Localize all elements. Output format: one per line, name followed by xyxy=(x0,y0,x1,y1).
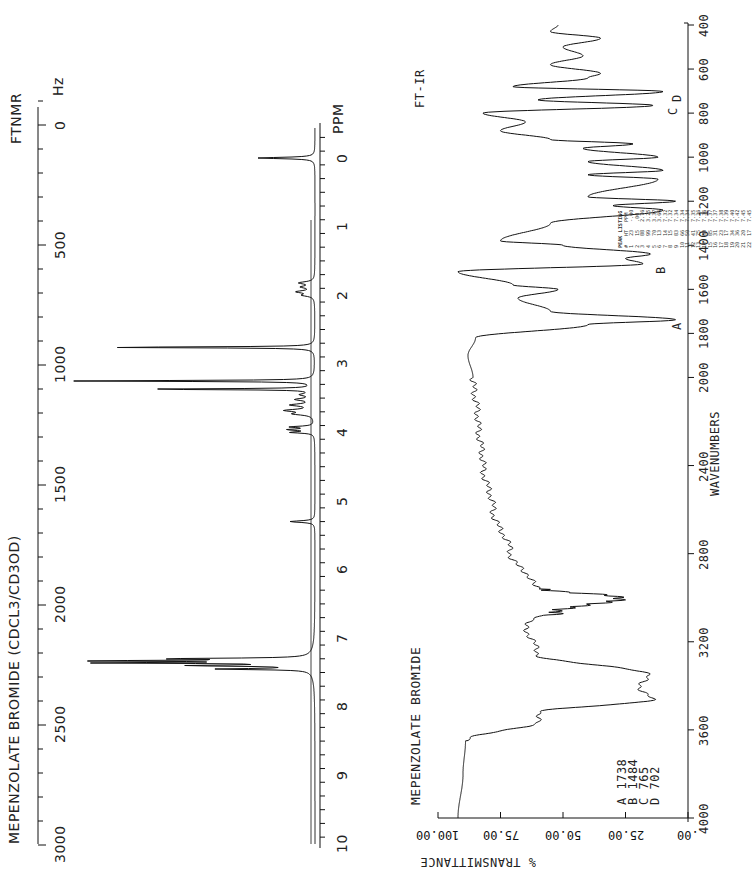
ir-peak-marker-b: B xyxy=(654,266,668,274)
nmr-ppm-tick-label: 10 xyxy=(334,834,350,853)
nmr-hz-tick-label: 2500 xyxy=(52,705,68,743)
ir-wavenumber-tick-label: 1200 xyxy=(697,186,711,217)
ir-wavenumber-tick-label: 600 xyxy=(697,58,711,81)
nmr-ppm-tick-label: 5 xyxy=(334,496,350,505)
ir-wavenumber-tick-label: 1000 xyxy=(697,142,711,173)
ir-transmittance-tick-label: 75.00 xyxy=(483,828,519,842)
ir-wavenumber-tick-label: 4000 xyxy=(697,803,711,834)
ir-peak-table-row: D 702 xyxy=(648,766,662,805)
nmr-hz-tick-label: 0 xyxy=(52,120,68,129)
peak-listing-row: 22177.45 xyxy=(747,200,752,248)
ir-wavenumber-tick-label: 800 xyxy=(697,102,711,125)
nmr-peak-listing: PEAK LISTING #HTPPM123-.00215.003882.764… xyxy=(618,200,752,248)
nmr-hz-unit: Hz xyxy=(50,77,66,96)
nmr-ppm-tick-label: 6 xyxy=(334,565,350,574)
nmr-ppm-tick-label: 7 xyxy=(334,633,350,642)
ir-wavenumber-tick-label: 2800 xyxy=(697,539,711,570)
ir-peak-marker-c: C xyxy=(666,108,680,116)
ir-wavenumber-tick-label: 3600 xyxy=(697,715,711,746)
nmr-ppm-tick-label: 9 xyxy=(334,770,350,779)
nmr-ppm-tick-label: 4 xyxy=(334,427,350,436)
nmr-instrument-label: FTNMR xyxy=(8,93,24,144)
nmr-ppm-tick-label: 1 xyxy=(334,222,350,231)
nmr-hz-tick-label: 3000 xyxy=(52,825,68,863)
nmr-ppm-unit: PPM xyxy=(330,104,346,134)
ir-title: MEPENZOLATE BROMIDE xyxy=(408,647,423,805)
ir-transmittance-tick-label: 50.00 xyxy=(545,828,581,842)
ir-wavenumber-tick-label: 2400 xyxy=(697,451,711,482)
nmr-ppm-tick-label: 3 xyxy=(334,359,350,368)
ir-transmittance-tick-label: 25.00 xyxy=(608,828,644,842)
ir-instrument-label: FT-IR xyxy=(413,69,427,108)
nmr-ppm-tick-label: 8 xyxy=(334,702,350,711)
nmr-hz-tick-label: 1000 xyxy=(52,345,68,383)
ir-peak-marker-d: D xyxy=(670,94,684,102)
nmr-hz-tick-label: 1500 xyxy=(52,465,68,503)
ir-wavenumber-tick-label: 400 xyxy=(697,14,711,37)
nmr-ppm-tick-label: 2 xyxy=(334,290,350,299)
nmr-trace xyxy=(74,128,315,844)
ir-wavenumber-tick-label: 3200 xyxy=(697,627,711,658)
ir-wavenumber-tick-label: 1800 xyxy=(697,318,711,349)
ir-transmittance-tick-label: 100.00 xyxy=(416,828,459,842)
nmr-hz-tick-label: 2000 xyxy=(52,585,68,623)
nmr-title: MEPENZOLATE BROMIDE (CDCL3/CD3OD) xyxy=(6,535,22,844)
nmr-hz-tick-label: 500 xyxy=(52,230,68,258)
ir-trace xyxy=(458,25,676,818)
ir-peak-marker-a: A xyxy=(670,322,684,330)
ir-ylabel: % TRANSMITTANCE xyxy=(420,855,536,869)
nmr-ppm-tick-label: 0 xyxy=(334,153,350,162)
ir-wavenumber-tick-label: 2000 xyxy=(697,363,711,394)
ir-wavenumber-tick-label: 1400 xyxy=(697,230,711,261)
ir-transmittance-tick-label: .00 xyxy=(677,828,699,842)
ir-wavenumber-tick-label: 1600 xyxy=(697,274,711,305)
